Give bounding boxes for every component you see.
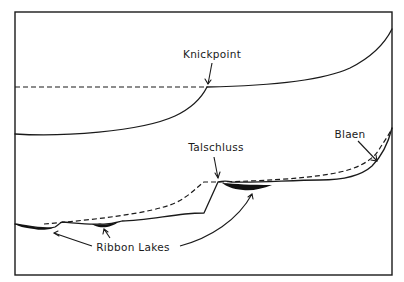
river-profile-panel: Knickpoint	[15, 29, 392, 135]
blaen-arrow-icon	[358, 141, 377, 161]
ribbon-lakes-arrow-1-icon	[54, 233, 92, 246]
ribbon-lakes-label: Ribbon Lakes	[96, 241, 169, 253]
talschluss-label: Talschluss	[187, 141, 243, 153]
ribbon-lakes-arrow-3-icon	[180, 194, 252, 246]
ribbon-lake-3	[222, 183, 272, 190]
glacial-profile-panel: Talschluss Blaen Ribbon Lakes	[15, 128, 392, 253]
diagram-canvas: Knickpoint Talschluss Blaen Ribbon Lakes	[0, 0, 404, 282]
blaen-label: Blaen	[334, 128, 365, 140]
lower-reach-profile-line	[15, 87, 207, 135]
knickpoint-label: Knickpoint	[183, 48, 241, 60]
